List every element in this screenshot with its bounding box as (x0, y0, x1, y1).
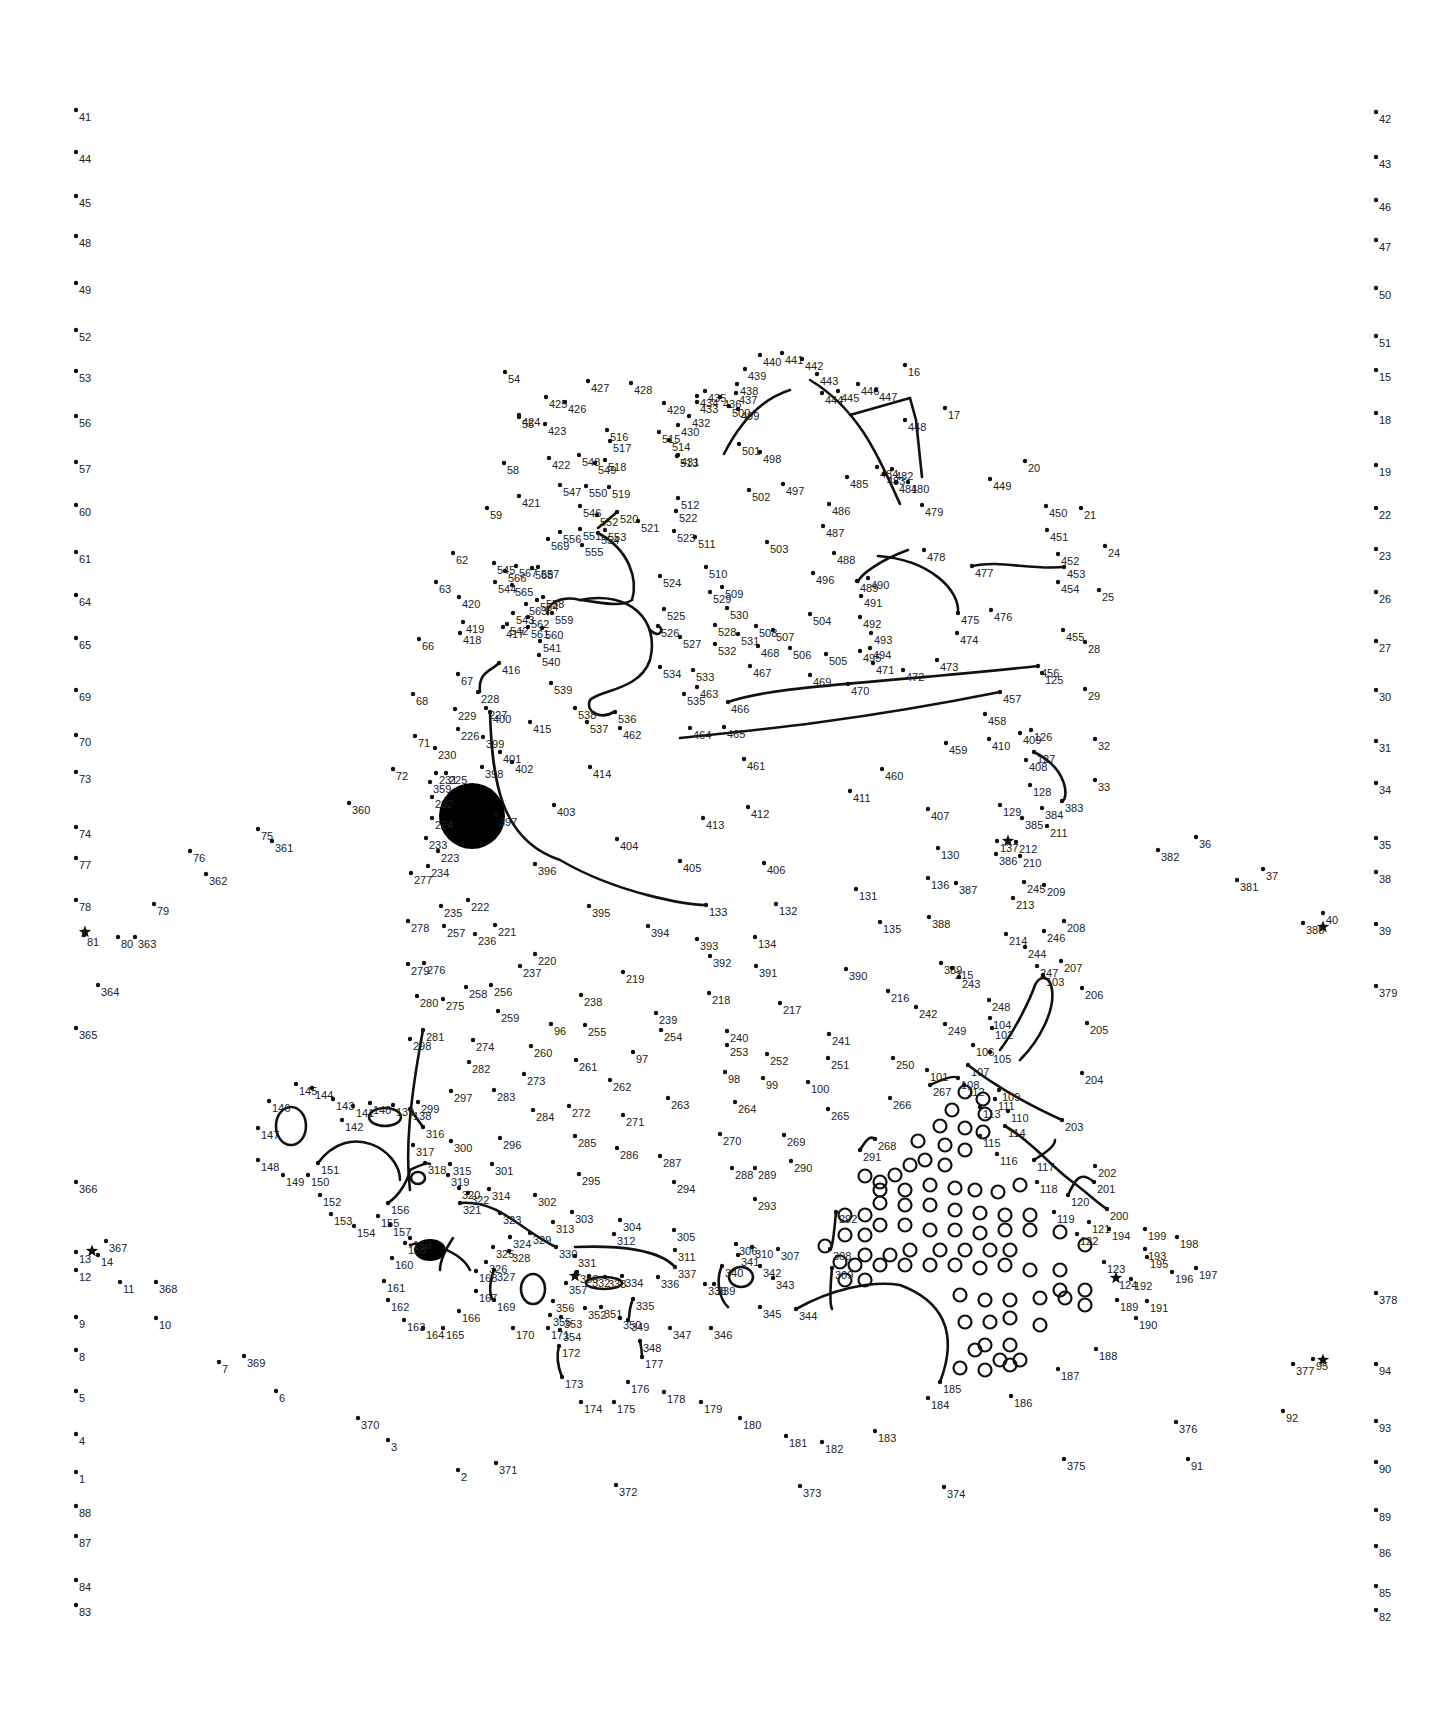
dot-marker (74, 1504, 78, 1508)
dot-label: 357 (569, 1284, 587, 1296)
dot-89: 89 (1374, 1508, 1391, 1523)
dot-label: 59 (490, 509, 502, 521)
dot-marker (391, 1103, 395, 1107)
dot-marker (550, 611, 554, 615)
dot-257: 257 (442, 924, 466, 939)
dot-142: 142 (340, 1118, 364, 1133)
dot-117: 117 (1032, 1158, 1055, 1173)
dot-label: 530 (730, 609, 748, 621)
dot-label: 176 (631, 1383, 649, 1395)
dot-label: 152 (323, 1196, 341, 1208)
dot-154: 154 (352, 1224, 376, 1239)
dot-marker (1321, 911, 1325, 915)
dot-label: 149 (286, 1176, 304, 1188)
dot-marker (662, 401, 666, 405)
dot-label: 77 (79, 859, 91, 871)
dot-282: 282 (467, 1060, 491, 1075)
dot-label: 288 (735, 1169, 753, 1181)
dot-to-dot-worksheet: 4144454849525356576061646569707374777881… (0, 0, 1446, 1713)
dot-label: 335 (636, 1300, 654, 1312)
dot-label: 100 (811, 1083, 829, 1095)
dot-label: 305 (677, 1231, 695, 1243)
dot-533: 533 (691, 668, 715, 683)
dot-label: 195 (1150, 1258, 1168, 1270)
dot-label: 38 (1379, 873, 1391, 885)
dot-label: 433 (700, 403, 718, 415)
dot-marker (518, 964, 522, 968)
dot-marker (613, 710, 617, 714)
dot-308: 308 (828, 1247, 852, 1262)
dot-label: 54 (508, 373, 520, 385)
dot-marker (457, 1186, 461, 1190)
dot-60: 60 (74, 503, 91, 518)
dot-501: 501 (737, 442, 761, 457)
guide-curve (831, 1268, 833, 1309)
dot-label: 391 (759, 967, 777, 979)
dot-marker (612, 1400, 616, 1404)
dot-294: 294 (672, 1180, 696, 1195)
dot-label: 539 (554, 684, 572, 696)
guide-curve (640, 1341, 642, 1357)
dot-263: 263 (666, 1096, 690, 1111)
dot-361: 361 (270, 839, 294, 854)
dot-marker (631, 1297, 635, 1301)
dot-marker (274, 1389, 278, 1393)
dot-label: 395 (592, 907, 610, 919)
dot-marker (489, 983, 493, 987)
dot-marker (995, 1152, 999, 1156)
dot-marker (306, 1173, 310, 1177)
ring-circle (899, 1219, 912, 1232)
dot-label: 67 (461, 675, 473, 687)
dot-33: 33 (1093, 778, 1110, 793)
dot-marker (858, 615, 862, 619)
dot-marker (658, 1154, 662, 1158)
dot-266: 266 (888, 1096, 912, 1111)
dot-177: 177 (640, 1355, 664, 1370)
dot-45: 45 (74, 194, 91, 209)
dot-label: 122 (1080, 1235, 1098, 1247)
dot-marker (1020, 816, 1024, 820)
dot-label: 376 (1179, 1423, 1197, 1435)
dot-marker (433, 746, 437, 750)
dot-marker (1374, 547, 1378, 551)
dot-marker (74, 503, 78, 507)
dot-405: 405 (678, 859, 702, 874)
dot-22: 22 (1374, 506, 1391, 521)
dot-label: 363 (138, 938, 156, 950)
dot-404: 404 (615, 837, 639, 852)
dot-label: 15 (1379, 371, 1391, 383)
dot-marker (368, 1101, 372, 1105)
dot-marker (583, 1023, 587, 1027)
dot-label: 218 (712, 994, 730, 1006)
dot-label: 303 (575, 1213, 593, 1225)
dot-label: 496 (816, 574, 834, 586)
dot-313: 313 (551, 1220, 575, 1235)
dot-label: 476 (994, 611, 1012, 623)
numbered-dots: 4144454849525356576061646569707374777881… (74, 108, 1398, 1623)
ring-circle (859, 1170, 872, 1183)
dot-169: 169 (492, 1298, 516, 1313)
dot-marker (1056, 552, 1060, 556)
dot-label: 58 (507, 464, 519, 476)
dot-marker (551, 1299, 555, 1303)
dot-marker (1035, 1180, 1039, 1184)
dot-536: 536 (613, 710, 637, 725)
dot-marker (575, 1270, 579, 1274)
dot-label: 47 (1379, 241, 1391, 253)
dot-label: 174 (584, 1403, 602, 1415)
dot-label: 507 (776, 631, 794, 643)
lower-oval (521, 1274, 545, 1304)
dot-84: 84 (74, 1578, 91, 1593)
dot-marker (873, 1429, 877, 1433)
dot-label: 428 (634, 384, 652, 396)
guide-curve (410, 1163, 430, 1170)
dot-marker (1035, 964, 1039, 968)
dot-marker (935, 658, 939, 662)
dot-marker (826, 1107, 830, 1111)
dot-label: 42 (1379, 113, 1391, 125)
dot-134: 134 (753, 935, 777, 950)
dot-marker (722, 725, 726, 729)
dot-marker (579, 993, 583, 997)
dot-marker (498, 1211, 502, 1215)
dot-label: 3 (391, 1441, 397, 1453)
